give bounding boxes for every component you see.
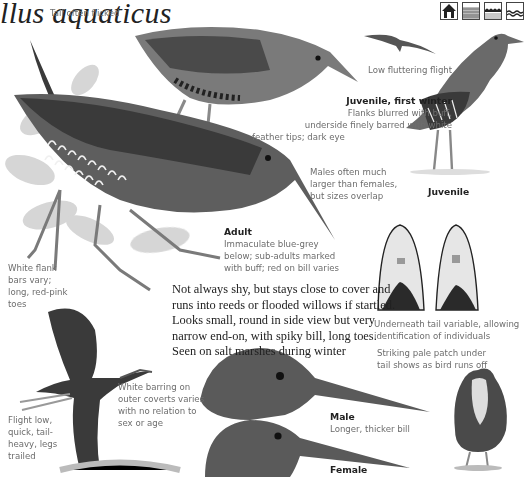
description-line: Seen on salt marshes during winter (172, 344, 395, 360)
caption-line: Flanks blurred with buff, (252, 107, 452, 119)
caption-line: but sizes overlap (310, 190, 397, 202)
caption-juvenile-first-winter: Juvenile, first winter Flanks blurred wi… (252, 95, 452, 143)
caption-line: Immaculate blue-grey (224, 238, 339, 250)
caption-males-size: Males often much larger than females, bu… (310, 166, 397, 202)
caption-line: sex or age (118, 417, 204, 429)
caption-undertail: Underneath tail variable, allowing ident… (374, 318, 519, 342)
caption-male: Male Longer, thicker bill (330, 411, 410, 435)
heading-female: Female (330, 464, 367, 476)
heading-male: Male (330, 411, 410, 423)
caption-line: White barring on (118, 381, 204, 393)
caption-line: Longer, thicker bill (330, 423, 410, 435)
caption-white-flank: White flank bars vary; long, red-pink to… (8, 262, 67, 310)
heading-juvenile-first-winter: Juvenile, first winter (252, 95, 452, 107)
caption-line: trailed (8, 450, 57, 462)
description-line: Looks small, round in side view but very (172, 313, 395, 329)
caption-adult: Adult Immaculate blue-grey below; sub-ad… (224, 226, 339, 274)
caption-line: identification of individuals (374, 330, 519, 342)
caption-white-barring: White barring on outer coverts varies wi… (118, 381, 204, 429)
caption-pale-patch: Striking pale patch under tail shows as … (377, 347, 487, 371)
caption-line: White flank (8, 262, 67, 274)
caption-tail-flicked: Tail often flicked (50, 7, 120, 19)
caption-line: with buff; red on bill varies (224, 262, 339, 274)
description-line: Not always shy, but stays close to cover… (172, 282, 395, 298)
caption-line: outer coverts varies (118, 393, 204, 405)
caption-line: Flight low, (8, 414, 57, 426)
caption-line: heavy, legs (8, 438, 57, 450)
caption-line: quick, tail- (8, 426, 57, 438)
caption-line: Underneath tail variable, allowing (374, 318, 519, 330)
caption-line: Males often much (310, 166, 397, 178)
caption-line: below; sub-adults marked (224, 250, 339, 262)
caption-juvenile: Juvenile (428, 186, 469, 198)
caption-line: bars vary; (8, 274, 67, 286)
main-description: Not always shy, but stays close to cover… (172, 282, 395, 360)
caption-low-fluttering-flight: Low fluttering flight (368, 64, 452, 76)
caption-line: toes (8, 298, 67, 310)
caption-line: with no relation to (118, 405, 204, 417)
caption-line: larger than females, (310, 178, 397, 190)
caption-line: tail shows as bird runs off (377, 359, 487, 371)
caption-line: long, red-pink (8, 286, 67, 298)
description-line: narrow end-on, with spiky bill, long toe… (172, 329, 395, 345)
description-line: runs into reeds or flooded willows if st… (172, 298, 395, 314)
caption-line: feather tips; dark eye (252, 131, 452, 143)
caption-line: underside finely barred with white (252, 119, 452, 131)
caption-flight-low-quick: Flight low, quick, tail- heavy, legs tra… (8, 414, 57, 462)
heading-adult: Adult (224, 226, 339, 238)
caption-line: Striking pale patch under (377, 347, 487, 359)
